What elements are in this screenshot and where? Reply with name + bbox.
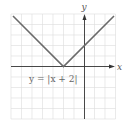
graph-canvas: x y y = |x + 2|	[0, 0, 124, 124]
x-axis-arrow-icon	[109, 65, 115, 69]
y-axis-label: y	[81, 2, 88, 12]
y-axis-arrow-icon	[83, 14, 87, 20]
x-axis-label: x	[117, 62, 122, 72]
equation-label: y = |x + 2|	[28, 74, 77, 85]
